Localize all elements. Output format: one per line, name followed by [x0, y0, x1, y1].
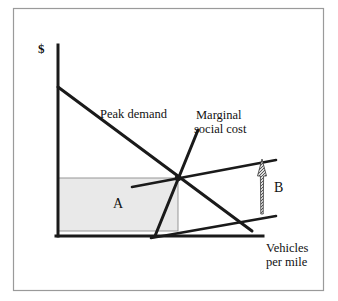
equilibrium-point-marker [175, 175, 181, 181]
figure-root: $ Peak demand Marginal social cost A B V… [0, 0, 338, 301]
y-axis-label: $ [38, 41, 45, 56]
marginal-social-cost-label-line1: Marginal [196, 108, 242, 122]
x-axis-label-line2: per mile [266, 255, 308, 269]
x-axis-label-line1: Vehicles [266, 241, 308, 255]
marginal-social-cost-label-line2: social cost [194, 122, 247, 136]
region-a-label: A [113, 196, 124, 211]
economics-diagram: $ Peak demand Marginal social cost A B V… [0, 0, 338, 301]
region-b-label: B [274, 180, 283, 195]
peak-demand-label: Peak demand [100, 107, 168, 121]
